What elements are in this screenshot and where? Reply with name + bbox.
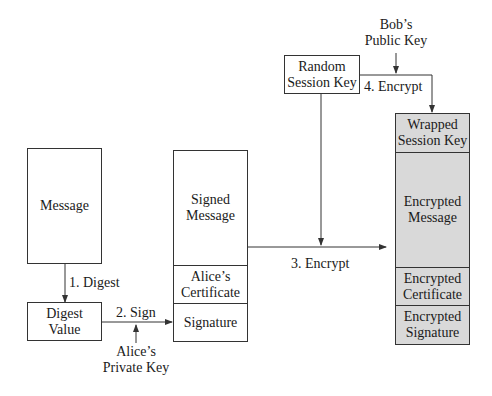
bob-public-key-line2: Public Key	[360, 33, 432, 49]
encrypted-message-box: Encrypted Message	[395, 152, 470, 268]
wrapped-session-key-label-line1: Wrapped	[407, 117, 458, 133]
signature-label: Signature	[184, 315, 238, 331]
encrypted-signature-box: Encrypted Signature	[395, 305, 470, 345]
encrypted-message-label-line2: Message	[408, 210, 457, 226]
signed-message-label-line2: Message	[186, 208, 235, 224]
digest-value-box: Digest Value	[27, 302, 102, 341]
signed-message-box: Signed Message	[173, 150, 248, 266]
bob-public-key-label: Bob’s Public Key	[360, 17, 432, 49]
step3-encrypt-label: 3. Encrypt	[291, 256, 349, 272]
alice-private-key-line2: Private Key	[100, 360, 172, 376]
step2-sign-label: 2. Sign	[116, 305, 156, 321]
encrypted-certificate-label-line2: Certificate	[403, 287, 462, 303]
random-session-key-label-line1: Random	[298, 59, 345, 75]
alice-private-key-line1: Alice’s	[100, 344, 172, 360]
signed-message-label-line1: Signed	[191, 192, 230, 208]
wrapped-session-key-box: Wrapped Session Key	[395, 113, 470, 153]
encrypted-certificate-box: Encrypted Certificate	[395, 267, 470, 306]
random-session-key-box: Random Session Key	[284, 55, 360, 94]
step4-encrypt-label: 4. Encrypt	[364, 79, 422, 95]
encrypted-message-label-line1: Encrypted	[404, 194, 462, 210]
random-session-key-label-line2: Session Key	[287, 75, 357, 91]
digest-value-label-line1: Digest	[46, 306, 83, 322]
encrypted-certificate-label-line1: Encrypted	[404, 271, 462, 287]
alice-certificate-label-line2: Certificate	[181, 285, 240, 301]
message-box: Message	[27, 148, 102, 264]
alice-certificate-label-line1: Alice’s	[191, 269, 231, 285]
message-label: Message	[40, 198, 89, 214]
encrypted-signature-label-line1: Encrypted	[404, 309, 462, 325]
wrapped-session-key-label-line2: Session Key	[398, 133, 468, 149]
signature-box: Signature	[173, 303, 248, 342]
alice-certificate-box: Alice’s Certificate	[173, 265, 248, 304]
step1-digest-label: 1. Digest	[69, 275, 120, 291]
bob-public-key-line1: Bob’s	[360, 17, 432, 33]
encrypted-signature-label-line2: Signature	[406, 325, 460, 341]
alice-private-key-label: Alice’s Private Key	[100, 344, 172, 376]
digest-value-label-line2: Value	[49, 322, 81, 338]
